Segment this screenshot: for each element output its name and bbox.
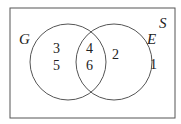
set-g-circle bbox=[30, 24, 106, 100]
set-g-label: G bbox=[19, 31, 30, 47]
universal-set-label: S bbox=[159, 15, 167, 31]
e-only-element: 2 bbox=[112, 47, 119, 62]
venn-diagram: S G E 3 5 4 6 2 1 bbox=[0, 0, 181, 124]
intersection-element: 4 bbox=[86, 41, 93, 56]
intersection-element: 6 bbox=[86, 58, 93, 73]
set-e-label: E bbox=[146, 31, 156, 47]
g-only-element: 3 bbox=[53, 41, 60, 56]
g-only-element: 5 bbox=[53, 58, 60, 73]
outside-element: 1 bbox=[150, 57, 157, 72]
